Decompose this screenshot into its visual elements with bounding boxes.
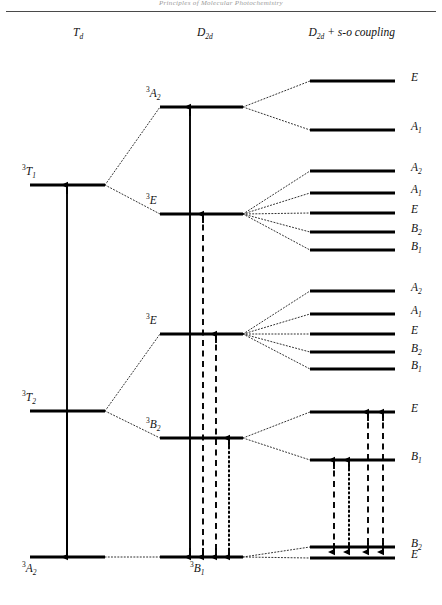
level-label-so-E-2: E (411, 203, 418, 215)
correlation-line (243, 438, 310, 460)
column-header-td: Td (73, 26, 83, 41)
level-label-d2d-3B2: 3B2 (146, 416, 161, 433)
energy-levels (30, 81, 395, 558)
correlation-line (243, 314, 310, 334)
correlation-line (243, 557, 310, 558)
level-label-d2d-3A2: 3A2 (146, 85, 161, 102)
level-label-d2d-3B1: 3B1 (190, 560, 205, 577)
correlation-line (105, 334, 160, 411)
level-label-so-E-4: E (411, 402, 418, 414)
correlation-line (243, 193, 310, 214)
correlation-line (243, 107, 310, 130)
level-label-so-E-5: E (411, 548, 418, 560)
level-label-td-3T1: 3T1 (22, 163, 36, 180)
correlation-line (243, 214, 310, 232)
energy-level-diagram: Principles of Molecular Photochemistry T… (0, 0, 442, 605)
correlation-line (243, 412, 310, 438)
level-label-so-B1-2: B1 (411, 240, 422, 255)
level-label-so-A1-1: A1 (411, 120, 422, 135)
level-label-so-B2-2: B2 (411, 222, 422, 237)
level-label-so-A1-3: A1 (411, 304, 422, 319)
correlation-line (243, 291, 310, 334)
level-label-so-B1-3: B1 (411, 359, 422, 374)
column-header-d2d: D2d (197, 26, 213, 41)
level-label-so-A2-2: A2 (411, 161, 422, 176)
level-label-so-B1-4: B1 (411, 450, 422, 465)
correlation-line (243, 81, 310, 107)
transition-arrows (67, 107, 383, 557)
correlation-line (243, 171, 310, 214)
level-label-so-E-3: E (411, 324, 418, 336)
level-label-td-3A2: 3A2 (22, 560, 37, 577)
correlation-line (243, 547, 310, 557)
correlation-line (105, 107, 160, 185)
diagram-canvas (0, 0, 442, 605)
level-label-so-B2-3: B2 (411, 342, 422, 357)
level-label-so-E-1: E (411, 71, 418, 83)
level-label-so-A1-2: A1 (411, 183, 422, 198)
level-label-d2d-3E-lower: 3E (146, 312, 157, 326)
level-label-so-A2-3: A2 (411, 281, 422, 296)
level-label-td-3T2: 3T2 (22, 389, 36, 406)
correlation-line (243, 334, 310, 369)
correlation-lines (105, 81, 310, 558)
level-label-d2d-3E-upper: 3E (146, 192, 157, 206)
correlation-line (243, 213, 310, 214)
correlation-line (243, 334, 310, 352)
column-header-so: D2d + s-o coupling (309, 26, 396, 41)
correlation-line (243, 214, 310, 250)
